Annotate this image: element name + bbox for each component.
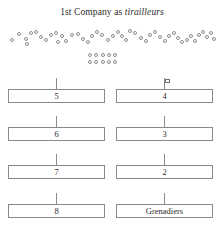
skirmisher-circle-34 bbox=[180, 40, 184, 44]
skirmisher-circle-37 bbox=[193, 39, 197, 43]
unit-marker-6 bbox=[56, 116, 65, 127]
flag-icon bbox=[165, 79, 170, 84]
unit-marker-5 bbox=[56, 78, 65, 89]
skirmisher-circle-38 bbox=[197, 33, 201, 37]
skirmisher-circle-21 bbox=[120, 34, 124, 38]
skirmisher-circle-31 bbox=[167, 34, 171, 38]
unit-marker-4 bbox=[164, 78, 173, 89]
unit-box-8[interactable]: 8 bbox=[8, 204, 105, 218]
unit-box-5[interactable]: 5 bbox=[8, 89, 105, 103]
page-title: 1st Company as tirailleurs bbox=[0, 7, 224, 17]
marker-pole bbox=[56, 78, 57, 89]
skirmisher-circle-6 bbox=[44, 38, 48, 42]
unit-box-label: Grenadiers bbox=[146, 206, 183, 215]
unit-box-7[interactable]: 7 bbox=[8, 165, 105, 179]
skirmisher-circle-15 bbox=[90, 34, 94, 38]
unit-box-3[interactable]: 3 bbox=[116, 127, 213, 141]
unit-marker-8 bbox=[56, 193, 65, 204]
formation-diagram: 1st Company as tirailleurs 5463728Grenad… bbox=[0, 0, 224, 236]
skirmisher-reserve bbox=[0, 0, 224, 236]
reserve-circle-6 bbox=[94, 60, 98, 64]
marker-pole bbox=[164, 193, 165, 204]
skirmisher-circle-33 bbox=[176, 36, 180, 40]
skirmisher-circle-30 bbox=[163, 39, 167, 43]
skirmisher-circle-28 bbox=[153, 30, 157, 34]
skirmisher-circle-8 bbox=[54, 31, 58, 35]
skirmisher-circle-35 bbox=[185, 38, 189, 42]
skirmisher-circle-40 bbox=[205, 35, 209, 39]
reserve-circle-4 bbox=[113, 53, 117, 57]
unit-box-4[interactable]: 4 bbox=[116, 89, 213, 103]
skirmisher-circle-24 bbox=[133, 31, 137, 35]
marker-pole bbox=[56, 116, 57, 127]
skirmisher-circle-41 bbox=[209, 31, 213, 35]
reserve-circle-3 bbox=[107, 53, 111, 57]
skirmisher-circle-20 bbox=[116, 30, 120, 34]
skirmisher-circle-1 bbox=[17, 32, 21, 36]
unit-box-grenadiers[interactable]: Grenadiers bbox=[116, 204, 213, 218]
skirmisher-circle-27 bbox=[148, 33, 152, 37]
unit-marker-7 bbox=[56, 154, 65, 165]
skirmisher-circle-22 bbox=[124, 38, 128, 42]
unit-box-label: 6 bbox=[54, 129, 58, 138]
skirmisher-circle-12 bbox=[76, 32, 80, 36]
skirmisher-circle-13 bbox=[81, 37, 85, 41]
skirmisher-circle-0 bbox=[10, 38, 14, 42]
skirmisher-circle-32 bbox=[172, 31, 176, 35]
reserve-circle-7 bbox=[101, 60, 105, 64]
unit-box-label: 5 bbox=[54, 91, 58, 100]
reserve-circle-5 bbox=[88, 60, 92, 64]
unit-box-label: 8 bbox=[54, 206, 58, 215]
skirmisher-circle-23 bbox=[128, 29, 132, 33]
skirmisher-circle-3 bbox=[29, 31, 33, 35]
page-title-emphasis: tirailleurs bbox=[125, 7, 164, 17]
page-title-prefix: 1st Company as bbox=[60, 7, 125, 17]
reserve-circle-2 bbox=[101, 53, 105, 57]
unit-box-label: 2 bbox=[162, 167, 166, 176]
reserve-circle-9 bbox=[113, 60, 117, 64]
skirmisher-screen bbox=[0, 0, 224, 236]
unit-box-2[interactable]: 2 bbox=[116, 165, 213, 179]
skirmisher-circle-9 bbox=[60, 34, 64, 38]
unit-box-label: 4 bbox=[162, 91, 166, 100]
skirmisher-circle-4 bbox=[34, 30, 38, 34]
marker-pole bbox=[164, 116, 165, 127]
skirmisher-circle-43 bbox=[56, 40, 60, 44]
skirmisher-circle-17 bbox=[100, 33, 104, 37]
skirmisher-circle-36 bbox=[189, 34, 193, 38]
marker-pole bbox=[164, 154, 165, 165]
skirmisher-circle-29 bbox=[158, 35, 162, 39]
reserve-circle-0 bbox=[88, 53, 92, 57]
skirmisher-circle-26 bbox=[144, 39, 148, 43]
unit-marker-2 bbox=[164, 154, 173, 165]
marker-pole bbox=[56, 193, 57, 204]
skirmisher-circle-11 bbox=[70, 33, 74, 37]
skirmisher-circle-18 bbox=[106, 38, 110, 42]
unit-box-label: 7 bbox=[54, 167, 58, 176]
skirmisher-circle-10 bbox=[64, 39, 68, 43]
skirmisher-circle-44 bbox=[25, 42, 29, 46]
skirmisher-circle-16 bbox=[95, 30, 99, 34]
skirmisher-circle-7 bbox=[49, 33, 53, 37]
reserve-circle-1 bbox=[94, 53, 98, 57]
reserve-circle-8 bbox=[107, 60, 111, 64]
unit-marker-grenadiers bbox=[164, 193, 173, 204]
skirmisher-circle-2 bbox=[24, 37, 28, 41]
unit-marker-3 bbox=[164, 116, 173, 127]
skirmisher-circle-42 bbox=[212, 37, 216, 41]
skirmisher-circle-25 bbox=[139, 36, 143, 40]
unit-box-6[interactable]: 6 bbox=[8, 127, 105, 141]
skirmisher-circle-39 bbox=[201, 30, 205, 34]
skirmisher-circle-19 bbox=[111, 34, 115, 38]
marker-pole bbox=[56, 154, 57, 165]
unit-box-label: 3 bbox=[162, 129, 166, 138]
skirmisher-circle-14 bbox=[86, 40, 90, 44]
skirmisher-circle-5 bbox=[39, 35, 43, 39]
